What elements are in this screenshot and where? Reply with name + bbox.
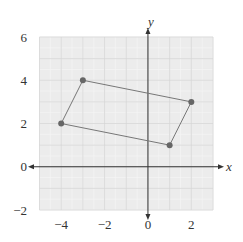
x-tick-label: 0 <box>145 217 152 232</box>
vertex-point <box>80 77 86 83</box>
vertex-point <box>188 99 194 105</box>
y-tick-label: 2 <box>21 116 28 131</box>
y-axis-label: y <box>146 14 154 29</box>
y-tick-label: 0 <box>21 159 28 174</box>
x-axis-arrow-right-icon <box>218 164 224 169</box>
y-tick-label: 4 <box>21 73 28 88</box>
x-tick-label: −2 <box>98 217 112 232</box>
vertex-point <box>58 121 64 127</box>
x-axis-label: x <box>225 159 232 174</box>
x-tick-label: 2 <box>188 217 195 232</box>
x-tick-label: −4 <box>54 217 68 232</box>
vertex-point <box>167 142 173 148</box>
y-tick-label: −2 <box>13 203 27 218</box>
y-tick-label: 6 <box>21 30 28 45</box>
coordinate-plane: −4−202−20246 x y <box>0 0 243 242</box>
x-axis-arrow-left-icon <box>28 164 34 169</box>
